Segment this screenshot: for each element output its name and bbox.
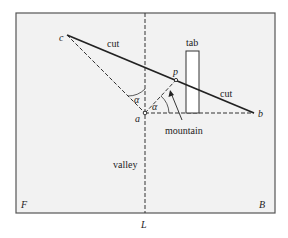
label-a: a	[135, 113, 140, 124]
label-mountain: mountain	[165, 125, 203, 136]
point-a	[143, 111, 147, 115]
tab-rect	[186, 51, 199, 113]
label-p: p	[172, 66, 178, 77]
label-cut-upper: cut	[107, 38, 119, 49]
label-alpha-right: α	[152, 101, 158, 112]
fold-cut-diagram: c a b p α α cut cut tab mountain valley …	[0, 0, 288, 238]
label-fold-line: L	[140, 219, 147, 230]
label-c: c	[59, 32, 64, 43]
label-front: F	[20, 199, 28, 210]
label-tab: tab	[186, 37, 198, 48]
label-valley: valley	[113, 159, 137, 170]
point-p	[174, 78, 177, 81]
label-cut-lower: cut	[220, 88, 232, 99]
label-alpha-left: α	[134, 94, 140, 105]
label-b: b	[258, 108, 263, 119]
label-back: B	[259, 199, 265, 210]
